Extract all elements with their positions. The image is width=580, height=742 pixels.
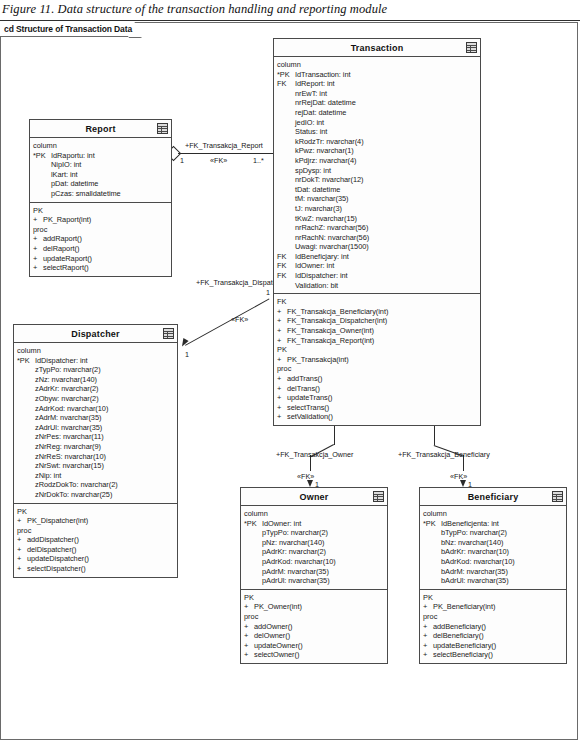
column-key	[33, 160, 51, 170]
visibility-marker: +	[17, 545, 27, 555]
column-row: tJ: nvarchar(3)	[274, 204, 480, 214]
class-beneficiary[interactable]: Beneficiary column *PKIdBeneficjenta: in…	[419, 487, 567, 664]
edge-label-transaction-owner: +FK_Transakcja_Owner	[276, 450, 353, 459]
caption-divider	[0, 20, 580, 21]
operation-row: +delBeneficiary()	[420, 631, 566, 641]
column-name: tM: nvarchar(35)	[295, 194, 348, 204]
column-row: FKIdDispatcher: int	[274, 271, 480, 281]
column-name: zNrReg: nvarchar(9)	[35, 442, 101, 452]
column-name: tKwZ: nvarchar(15)	[295, 214, 357, 224]
column-key	[277, 194, 295, 204]
operation-name: setValidation()	[287, 412, 333, 422]
column-row: bNz: nvarchar(140)	[420, 538, 566, 548]
column-key: *PK	[17, 356, 35, 366]
arrowhead-beneficiary	[460, 480, 466, 487]
visibility-marker: +	[17, 535, 27, 545]
column-row: zTypPo: nvarchar(2)	[14, 365, 177, 375]
column-name: zAdrKr: nvarchar(2)	[35, 384, 99, 394]
table-icon	[157, 123, 168, 134]
column-name: IdBeneficjary: int	[295, 252, 349, 262]
column-key	[17, 394, 35, 404]
column-name: zTypPo: nvarchar(2)	[35, 365, 101, 375]
column-row: pDat: datetime	[30, 179, 171, 189]
column-name: IdBeneficjenta: int	[441, 519, 499, 529]
mult-dispatcher-source: 1	[185, 350, 189, 359]
report-pk-list: +PK_Raport(int)	[30, 215, 171, 225]
beneficiary-pk-list: +PK_Beneficiary(int)	[420, 602, 566, 612]
visibility-marker: +	[277, 403, 287, 413]
column-name: kPwz: nvarchar(1)	[295, 146, 354, 156]
operation-row: +selectDispatcher()	[14, 564, 177, 574]
visibility-marker: +	[33, 215, 43, 225]
column-key: *PK	[244, 519, 262, 529]
table-icon	[163, 328, 174, 339]
visibility-marker: +	[244, 622, 254, 632]
class-transaction-header: Transaction	[274, 39, 480, 57]
class-beneficiary-columns: column *PKIdBeneficjenta: intbTypPo: nva…	[420, 506, 566, 590]
column-row: zNrDokTo: nvarchar(25)	[14, 490, 177, 500]
class-dispatcher-title: Dispatcher	[71, 329, 120, 339]
operation-row: +addDispatcher()	[14, 535, 177, 545]
column-name: zNip: int	[35, 471, 61, 481]
column-key	[244, 547, 262, 557]
column-key	[17, 384, 35, 394]
column-name: pDat: datetime	[51, 179, 98, 189]
column-row: bAdrKod: nvarchar(10)	[420, 557, 566, 567]
visibility-marker: +	[33, 263, 43, 273]
column-key	[17, 375, 35, 385]
column-row: bAdrKr: nvarchar(10)	[420, 547, 566, 557]
operation-name: updateBeneficiary()	[433, 641, 496, 651]
beneficiary-proc-list: +addBeneficiary()+delBeneficiary()+updat…	[420, 622, 566, 660]
column-row: kRodzTr: nvarchar(4)	[274, 137, 480, 147]
column-row: zRodzDokTo: nvarchar(2)	[14, 480, 177, 490]
column-key	[277, 242, 295, 252]
edge-label-report-transaction: +FK_Transakcja_Report	[185, 141, 263, 150]
report-column-list: *PKIdRaportu: intNipIO: intlKart: intpDa…	[30, 151, 171, 199]
visibility-marker: +	[423, 631, 433, 641]
operation-name: selectRaport()	[43, 263, 89, 273]
visibility-marker: +	[244, 650, 254, 660]
section-label-column: column	[274, 60, 480, 70]
operation-row: +PK_Raport(int)	[30, 215, 171, 225]
class-dispatcher-columns: column *PKIdDispatcher: intzTypPo: nvarc…	[14, 343, 177, 504]
operation-row: +PK_Beneficiary(int)	[420, 602, 566, 612]
column-name: pAdrM: nvarchar(35)	[262, 567, 329, 577]
column-key	[17, 423, 35, 433]
column-row: zNrSwt: nvarchar(15)	[14, 461, 177, 471]
operation-name: PK_Beneficiary(int)	[433, 602, 495, 612]
column-name: spDysp: int	[295, 166, 331, 176]
class-dispatcher[interactable]: Dispatcher column *PKIdDispatcher: intzT…	[13, 324, 178, 578]
column-name: tJ: nvarchar(3)	[295, 204, 342, 214]
column-row: *PKIdOwner: int	[241, 519, 387, 529]
section-label-pk: PK	[241, 593, 387, 603]
column-key: FK	[277, 261, 295, 271]
operation-name: delBeneficiary()	[433, 631, 484, 641]
column-name: zNrSwt: nvarchar(15)	[35, 461, 104, 471]
dispatcher-proc-list: +addDispatcher()+delDispatcher()+updateD…	[14, 535, 177, 573]
column-row: zNrReg: nvarchar(9)	[14, 442, 177, 452]
class-owner[interactable]: Owner column *PKIdOwner: intpTypPo: nvar…	[240, 487, 388, 664]
visibility-marker: +	[277, 336, 287, 346]
column-key	[277, 175, 295, 185]
column-key: *PK	[277, 70, 295, 80]
visibility-marker: +	[277, 374, 287, 384]
column-name: IdTransaction: int	[295, 70, 351, 80]
class-report[interactable]: Report column *PKIdRaportu: intNipIO: in…	[29, 119, 172, 277]
column-name: bTypPo: nvarchar(2)	[441, 528, 507, 538]
visibility-marker: +	[423, 622, 433, 632]
section-label-proc: proc	[274, 364, 480, 374]
column-row: *PKIdBeneficjenta: int	[420, 519, 566, 529]
column-key	[423, 557, 441, 567]
column-row: Status: int	[274, 127, 480, 137]
column-row: jedIO: int	[274, 118, 480, 128]
column-row: tDat: datetime	[274, 185, 480, 195]
class-beneficiary-pk: PK +PK_Beneficiary(int) proc +addBenefic…	[420, 590, 566, 663]
class-transaction[interactable]: Transaction column *PKIdTransaction: int…	[273, 38, 481, 426]
column-key: *PK	[423, 519, 441, 529]
operation-row: +selectOwner()	[241, 650, 387, 660]
operation-name: addDispatcher()	[27, 535, 79, 545]
column-key: FK	[277, 252, 295, 262]
operation-row: +delRaport()	[30, 244, 171, 254]
edge-label-transaction-beneficiary: +FK_Transakcja_Beneficiary	[398, 450, 490, 459]
column-key	[17, 413, 35, 423]
